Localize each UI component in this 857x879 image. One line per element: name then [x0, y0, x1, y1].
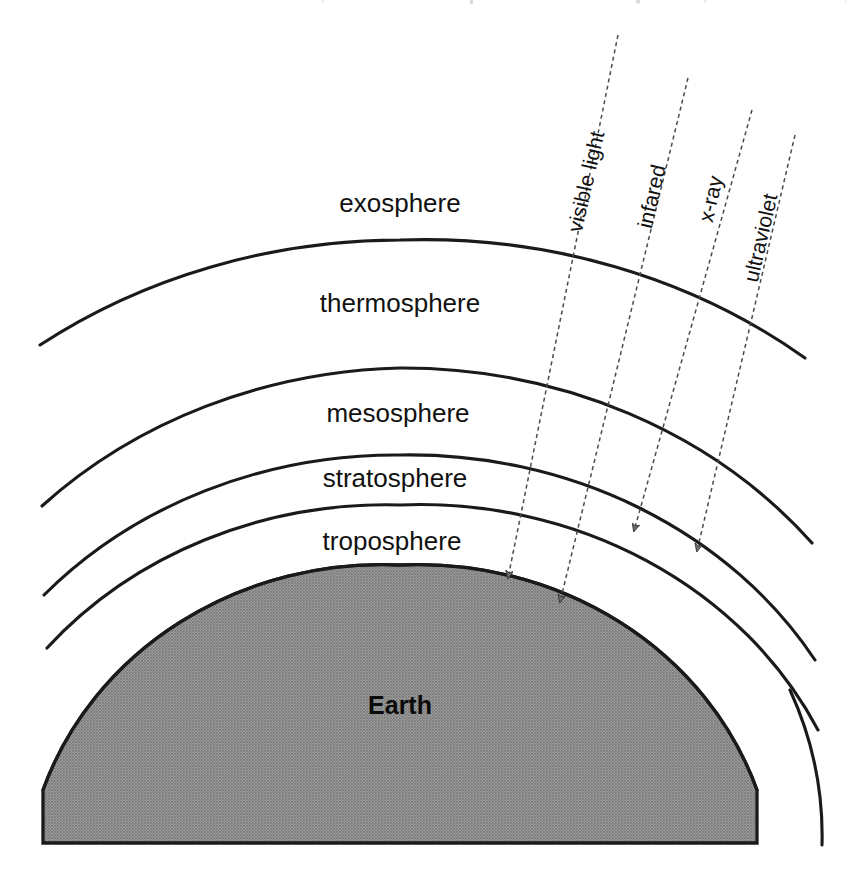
scan-artifacts: [322, 0, 846, 4]
radiation-rays: [508, 35, 795, 602]
ray-label-x-ray: x-ray: [694, 173, 727, 224]
ray-label-infared: infared: [633, 162, 670, 230]
layer-label-stratosphere: stratosphere: [323, 463, 468, 493]
atmosphere-diagram: exosphere thermosphere mesosphere strato…: [0, 0, 857, 879]
boundary-outer-right-tail: [790, 690, 822, 845]
atmosphere-diagram-canvas: exosphere thermosphere mesosphere strato…: [0, 0, 857, 879]
layer-label-exosphere: exosphere: [339, 188, 460, 218]
layer-label-troposphere: troposphere: [323, 526, 462, 556]
ray-label-ultraviolet: ultraviolet: [739, 191, 782, 284]
layer-label-thermosphere: thermosphere: [320, 288, 480, 318]
layer-label-mesosphere: mesosphere: [326, 398, 469, 428]
ray-label-visible-light: visible light: [563, 129, 609, 234]
ray-visible-light: [508, 35, 618, 578]
earth-label: Earth: [368, 691, 432, 719]
